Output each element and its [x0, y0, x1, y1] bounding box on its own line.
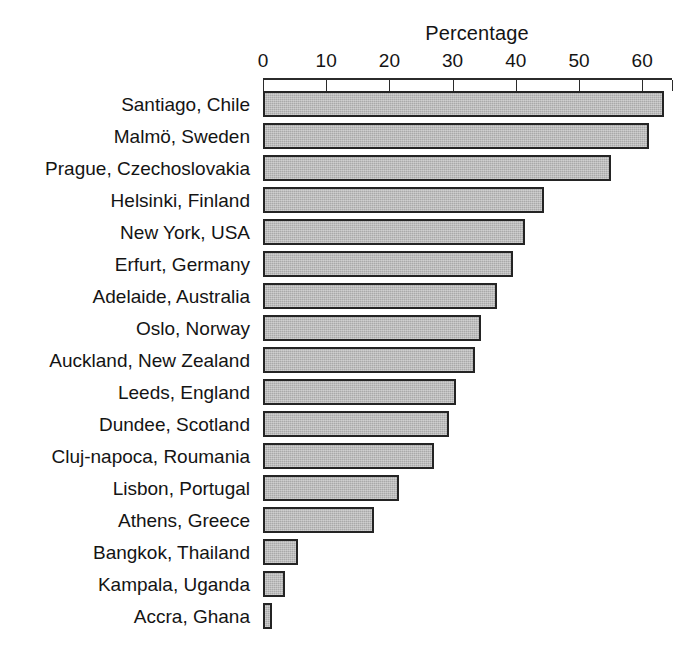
category-label: Dundee, Scotland [99, 410, 250, 442]
category-label: Adelaide, Australia [93, 282, 250, 314]
x-axis-tick-label: 0 [243, 50, 283, 72]
category-label: Auckland, New Zealand [49, 346, 250, 378]
bar [263, 315, 481, 341]
bar [263, 251, 513, 277]
bar-row: Erfurt, Germany [0, 250, 698, 282]
category-label: Leeds, England [118, 378, 250, 410]
bar [263, 443, 434, 469]
bar [263, 571, 285, 597]
bar-row: Kampala, Uganda [0, 570, 698, 602]
bar-row: Bangkok, Thailand [0, 538, 698, 570]
bar [263, 155, 611, 181]
bar-row: Oslo, Norway [0, 314, 698, 346]
bar-row: New York, USA [0, 218, 698, 250]
bar [263, 379, 456, 405]
category-label: Prague, Czechoslovakia [45, 154, 250, 186]
x-axis-tick-label: 20 [369, 50, 409, 72]
bar-row: Prague, Czechoslovakia [0, 154, 698, 186]
bar-row: Santiago, Chile [0, 90, 698, 122]
x-axis-tick-label: 40 [496, 50, 536, 72]
category-label: New York, USA [120, 218, 250, 250]
bar [263, 507, 374, 533]
x-axis-line [263, 78, 672, 80]
bar-row: Lisbon, Portugal [0, 474, 698, 506]
category-label: Bangkok, Thailand [93, 538, 250, 570]
bar [263, 539, 298, 565]
bar-row: Adelaide, Australia [0, 282, 698, 314]
category-label: Athens, Greece [118, 506, 250, 538]
x-axis-tick-label: 10 [306, 50, 346, 72]
bar-chart: Percentage 0102030405060 Santiago, Chile… [0, 0, 698, 659]
category-label: Oslo, Norway [136, 314, 250, 346]
x-axis-tick-label: 30 [433, 50, 473, 72]
category-label: Kampala, Uganda [98, 570, 250, 602]
bar [263, 411, 449, 437]
bar [263, 91, 664, 117]
bar [263, 283, 497, 309]
bar-row: Cluj-napoca, Roumania [0, 442, 698, 474]
bar-row: Athens, Greece [0, 506, 698, 538]
x-axis-tick-label: 50 [559, 50, 599, 72]
bar-row: Accra, Ghana [0, 602, 698, 634]
bar [263, 475, 399, 501]
category-label: Santiago, Chile [121, 90, 250, 122]
category-label: Lisbon, Portugal [113, 474, 250, 506]
bar-row: Helsinki, Finland [0, 186, 698, 218]
bar [263, 603, 272, 629]
bar [263, 123, 649, 149]
bar [263, 219, 525, 245]
category-label: Malmö, Sweden [114, 122, 250, 154]
bar-row: Leeds, England [0, 378, 698, 410]
bar [263, 187, 544, 213]
x-axis-tick-label: 60 [622, 50, 662, 72]
category-label: Erfurt, Germany [115, 250, 250, 282]
category-label: Helsinki, Finland [111, 186, 250, 218]
category-label: Cluj-napoca, Roumania [51, 442, 250, 474]
bar-row: Malmö, Sweden [0, 122, 698, 154]
bar-row: Auckland, New Zealand [0, 346, 698, 378]
category-label: Accra, Ghana [134, 602, 250, 634]
bar-row: Dundee, Scotland [0, 410, 698, 442]
bar [263, 347, 475, 373]
